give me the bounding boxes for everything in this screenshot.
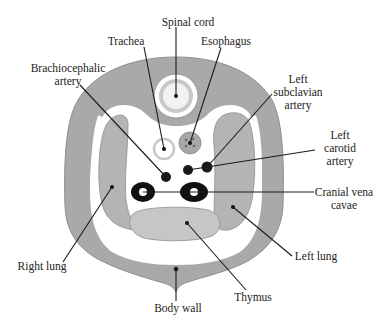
- label-left-subclavian-line3: artery: [285, 99, 312, 112]
- label-esophagus: Esophagus: [201, 35, 251, 48]
- label-brachiocephalic-line1: Brachiocephalic: [31, 62, 106, 75]
- label-spinal-cord: Spinal cord: [162, 16, 215, 29]
- dot-trachea: [162, 147, 166, 151]
- dot-body-wall: [174, 267, 178, 271]
- label-cranial-vena-line2: cavae: [331, 199, 357, 211]
- label-left-subclavian-line1: Left: [288, 73, 308, 85]
- dot-spinal-cord: [174, 94, 178, 98]
- thymus-shape: [130, 207, 220, 241]
- dot-left-lung: [231, 205, 235, 209]
- label-thymus: Thymus: [234, 291, 272, 304]
- label-cranial-vena-line1: Cranial vena: [315, 186, 373, 198]
- dot-thymus: [185, 221, 189, 225]
- label-trachea: Trachea: [108, 35, 145, 47]
- label-left-carotid-line2: carotid: [324, 142, 356, 154]
- label-right-lung: Right lung: [18, 260, 67, 273]
- dot-esophagus: [188, 141, 192, 145]
- label-left-lung: Left lung: [295, 250, 338, 263]
- dot-right-lung: [110, 185, 114, 189]
- label-brachiocephalic-line2: artery: [55, 75, 82, 88]
- label-left-carotid-line3: artery: [327, 155, 354, 168]
- thorax-cross-section-diagram: Spinal cord Trachea Esophagus Brachiocep…: [0, 0, 389, 327]
- label-left-carotid-line1: Left: [330, 129, 350, 141]
- label-body-wall: Body wall: [154, 302, 202, 315]
- label-left-subclavian-line2: subclavian: [273, 86, 322, 98]
